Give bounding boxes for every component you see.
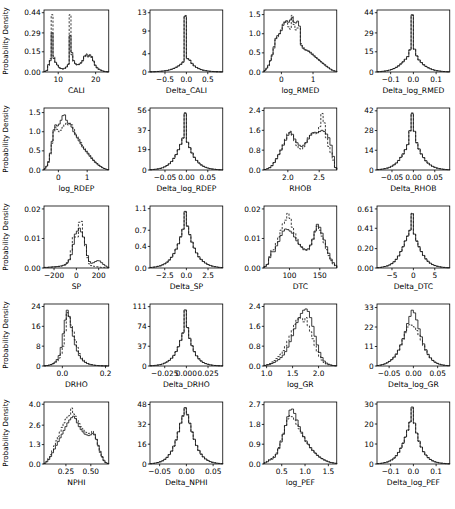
svg-text:−200: −200 bbox=[44, 271, 65, 280]
subplot-delta-dtc: −5050.000.200.410.61Delta_DTC bbox=[341, 196, 455, 294]
subplot-nphi: 0.250.500.01.32.64.0NPHIProbability Dens… bbox=[0, 392, 114, 490]
svg-text:0.0: 0.0 bbox=[248, 68, 260, 77]
svg-text:0.02: 0.02 bbox=[24, 205, 40, 214]
y-axis-label: Probability Density bbox=[1, 6, 10, 74]
histogram-dashed bbox=[264, 15, 337, 72]
svg-text:32: 32 bbox=[137, 420, 146, 429]
histogram-solid bbox=[44, 33, 109, 72]
histogram-dashed bbox=[150, 408, 223, 464]
svg-text:0: 0 bbox=[279, 75, 284, 84]
svg-text:0.000: 0.000 bbox=[176, 369, 197, 378]
svg-text:1.5: 1.5 bbox=[286, 369, 298, 378]
svg-text:5: 5 bbox=[433, 271, 438, 280]
subplot-delta-sp: −2.50.02.50.00.40.71.1Delta_SP bbox=[114, 196, 228, 294]
histogram-dashed bbox=[377, 324, 450, 366]
svg-text:0.25: 0.25 bbox=[58, 467, 75, 476]
svg-text:0.61: 0.61 bbox=[357, 205, 374, 214]
svg-text:29: 29 bbox=[364, 29, 374, 38]
x-axis-label: Delta_CALI bbox=[166, 86, 207, 95]
svg-text:1.1: 1.1 bbox=[135, 204, 147, 213]
svg-text:1.5: 1.5 bbox=[29, 108, 41, 117]
svg-text:2.7: 2.7 bbox=[248, 400, 260, 409]
svg-text:1.6: 1.6 bbox=[248, 322, 260, 331]
svg-text:1.5: 1.5 bbox=[322, 467, 334, 476]
svg-text:0.0: 0.0 bbox=[248, 460, 260, 469]
x-axis-label: log_RDEP bbox=[58, 184, 94, 193]
svg-text:0.00: 0.00 bbox=[178, 467, 195, 476]
svg-text:48: 48 bbox=[137, 400, 147, 409]
histogram-solid bbox=[264, 130, 337, 170]
subplot-drho: 0.00.2081624DRHOProbability Density bbox=[0, 294, 114, 392]
svg-text:0.1: 0.1 bbox=[430, 75, 442, 84]
svg-text:2.4: 2.4 bbox=[248, 106, 260, 115]
svg-text:0.5: 0.5 bbox=[202, 75, 214, 84]
svg-text:0.0: 0.0 bbox=[180, 75, 192, 84]
histogram-dashed bbox=[377, 213, 450, 268]
histogram-dashed bbox=[264, 113, 337, 170]
svg-text:0: 0 bbox=[142, 362, 147, 371]
svg-text:0.44: 0.44 bbox=[24, 8, 41, 17]
x-axis-label: log_GR bbox=[287, 380, 314, 389]
svg-text:0.00: 0.00 bbox=[244, 264, 261, 273]
svg-text:0.0: 0.0 bbox=[248, 362, 260, 371]
svg-text:1.5: 1.5 bbox=[248, 10, 260, 19]
svg-text:0: 0 bbox=[411, 271, 416, 280]
svg-text:1.0: 1.0 bbox=[299, 467, 311, 476]
histogram-solid bbox=[44, 228, 109, 268]
x-axis-label: Delta_log_RMED bbox=[383, 86, 445, 95]
svg-text:0: 0 bbox=[142, 166, 147, 175]
svg-text:0: 0 bbox=[56, 173, 61, 182]
svg-text:9: 9 bbox=[142, 27, 147, 36]
svg-text:0: 0 bbox=[142, 460, 147, 469]
subplot-delta-log-gr: −0.050.000.050112233Delta_log_GR bbox=[341, 294, 455, 392]
subplot-log-pef: 0.51.01.50.00.91.82.7log_PEF bbox=[228, 392, 342, 490]
histogram-solid bbox=[377, 310, 450, 366]
svg-text:150: 150 bbox=[312, 271, 326, 280]
subplot-delta-cali: −0.50.00.504913Delta_CALI bbox=[114, 0, 228, 98]
svg-text:0.7: 0.7 bbox=[135, 226, 147, 235]
subplot-delta-nphi: −0.050.000.050163248Delta_NPHI bbox=[114, 392, 228, 490]
histogram-dashed bbox=[44, 123, 109, 170]
svg-text:0.01: 0.01 bbox=[244, 234, 261, 243]
svg-text:−5: −5 bbox=[387, 271, 398, 280]
svg-text:−0.1: −0.1 bbox=[382, 467, 400, 476]
svg-text:0.0: 0.0 bbox=[29, 460, 41, 469]
histogram-solid bbox=[264, 409, 337, 464]
svg-text:−0.025: −0.025 bbox=[151, 369, 179, 378]
svg-text:0: 0 bbox=[369, 166, 374, 175]
svg-text:1.8: 1.8 bbox=[248, 420, 260, 429]
svg-text:4: 4 bbox=[142, 49, 147, 58]
subplot-delta-drho: −0.0250.0000.02503774111Delta_DRHO bbox=[114, 294, 228, 392]
svg-text:1: 1 bbox=[310, 75, 315, 84]
svg-text:24: 24 bbox=[31, 302, 41, 311]
svg-text:0.20: 0.20 bbox=[357, 244, 374, 253]
x-axis-label: log_PEF bbox=[285, 478, 314, 487]
svg-text:1.6: 1.6 bbox=[248, 126, 260, 135]
svg-text:19: 19 bbox=[137, 145, 147, 154]
histogram-solid bbox=[150, 408, 223, 464]
svg-text:−0.05: −0.05 bbox=[148, 467, 171, 476]
x-axis-label: Delta_log_PEF bbox=[387, 478, 440, 487]
svg-text:16: 16 bbox=[137, 440, 147, 449]
svg-text:10: 10 bbox=[54, 75, 64, 84]
svg-text:2.4: 2.4 bbox=[248, 302, 260, 311]
subplot-sp: −20002000.000.010.02SPProbability Densit… bbox=[0, 196, 114, 294]
svg-text:−0.05: −0.05 bbox=[378, 369, 401, 378]
histogram-dashed bbox=[150, 310, 223, 366]
svg-text:20: 20 bbox=[91, 75, 101, 84]
svg-text:0.00: 0.00 bbox=[178, 173, 195, 182]
subplot-dtc: 1001500.000.010.02DTC bbox=[228, 196, 342, 294]
svg-text:28: 28 bbox=[364, 126, 374, 135]
svg-text:2.0: 2.0 bbox=[312, 369, 324, 378]
x-axis-label: RHOB bbox=[289, 184, 311, 193]
svg-text:74: 74 bbox=[137, 322, 147, 331]
svg-text:0.0: 0.0 bbox=[248, 166, 260, 175]
svg-text:0.29: 0.29 bbox=[24, 29, 41, 38]
x-axis-label: Delta_NPHI bbox=[165, 478, 207, 487]
svg-text:−0.05: −0.05 bbox=[153, 173, 176, 182]
svg-text:0.1: 0.1 bbox=[430, 467, 442, 476]
svg-text:13: 13 bbox=[137, 8, 147, 17]
x-axis-label: Delta_DTC bbox=[394, 282, 433, 291]
histogram-dashed bbox=[264, 416, 337, 464]
subplot-log-rmed: 010.00.51.01.5log_RMED bbox=[228, 0, 342, 98]
